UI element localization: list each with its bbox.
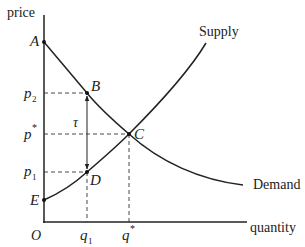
demand-curve [44, 42, 243, 185]
qstar-tick-label: q * [122, 223, 135, 243]
point-b-marker [85, 91, 89, 95]
y-axis-label: price [7, 5, 35, 20]
svg-text:*: * [130, 223, 135, 234]
supply-label: Supply [199, 24, 239, 39]
x-axis-label: quantity [250, 220, 296, 235]
p1-tick-label: p 1 [23, 163, 37, 182]
svg-text:2: 2 [32, 94, 37, 104]
point-a-marker [42, 40, 46, 44]
supply-demand-diagram: price quantity O Supply Demand A B C D E… [0, 0, 305, 247]
point-e-label: E [29, 192, 39, 208]
svg-text:p: p [23, 126, 32, 142]
p2-tick-label: p 2 [23, 85, 37, 104]
svg-text:q: q [80, 227, 88, 243]
point-b-label: B [91, 78, 100, 94]
svg-text:1: 1 [88, 236, 93, 246]
origin-label: O [31, 228, 41, 243]
point-a-label: A [29, 33, 40, 49]
svg-text:p: p [23, 163, 32, 179]
point-d-marker [85, 170, 89, 174]
point-e-marker [42, 198, 46, 202]
svg-text:*: * [32, 122, 37, 133]
pstar-tick-label: p * [23, 122, 37, 142]
tax-label: τ [73, 115, 79, 130]
demand-label: Demand [253, 177, 300, 192]
supply-curve [44, 43, 206, 200]
svg-text:1: 1 [32, 172, 37, 182]
svg-text:q: q [122, 227, 130, 243]
point-d-label: D [89, 172, 101, 188]
svg-text:p: p [23, 85, 32, 101]
point-c-label: C [134, 126, 145, 142]
q1-tick-label: q 1 [80, 227, 93, 246]
point-c-marker [127, 132, 131, 136]
